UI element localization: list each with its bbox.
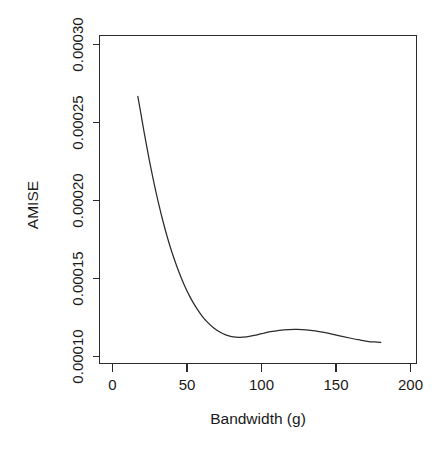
- chart-figure: 0.00030 0.00025 0.00020 0.00015 0.00010 …: [0, 0, 448, 457]
- x-tick-label-3: 150: [323, 376, 348, 393]
- y-axis-title: AMISE: [24, 181, 41, 229]
- x-tick-label-1: 50: [179, 376, 196, 393]
- x-axis-ticks: [113, 364, 411, 372]
- x-axis-tick-labels: 0 50 100 150 200: [108, 376, 423, 393]
- amise-curve: [138, 96, 381, 342]
- y-axis-ticks: [93, 45, 100, 357]
- y-tick-label-1: 0.00015: [69, 251, 86, 305]
- y-tick-label-0: 0.00010: [69, 329, 86, 383]
- amise-line-chart: 0.00030 0.00025 0.00020 0.00015 0.00010 …: [0, 0, 448, 457]
- y-axis-tick-labels: 0.00030 0.00025 0.00020 0.00015 0.00010: [69, 17, 86, 383]
- x-tick-label-2: 100: [249, 376, 274, 393]
- y-tick-label-3: 0.00025: [69, 95, 86, 149]
- plot-frame: [100, 36, 417, 364]
- x-tick-label-0: 0: [108, 376, 116, 393]
- x-axis-title: Bandwidth (g): [210, 410, 306, 427]
- y-tick-label-2: 0.00020: [69, 173, 86, 227]
- x-tick-label-4: 200: [398, 376, 423, 393]
- y-tick-label-4: 0.00030: [69, 17, 86, 71]
